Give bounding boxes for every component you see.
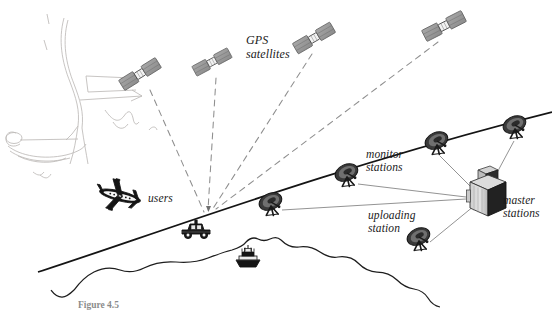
signal-ray-sat3 bbox=[212, 54, 312, 210]
link-monitor-upper-to-master bbox=[440, 156, 470, 186]
satellite-3 bbox=[292, 22, 335, 54]
airplane-icon bbox=[92, 174, 144, 216]
signal-convergence-arrow bbox=[206, 206, 211, 212]
master-station-building-icon bbox=[467, 166, 507, 216]
satellite-1 bbox=[119, 57, 162, 90]
figure-caption: Figure 4.5 bbox=[78, 300, 119, 310]
monitor-station-left bbox=[332, 160, 360, 186]
label-gps-satellites: GPS satellites bbox=[246, 34, 290, 61]
gps-architecture-figure: GPS satellites users monitor stations ma… bbox=[0, 0, 552, 312]
signal-ray-sat4 bbox=[216, 42, 438, 209]
label-monitor-stations: monitor stations bbox=[366, 148, 403, 173]
link-upload-to-master bbox=[430, 206, 474, 242]
monitor-station-upper bbox=[422, 128, 450, 154]
ship-icon bbox=[236, 245, 260, 267]
satellite-4 bbox=[421, 10, 466, 41]
label-master-stations: master stations bbox=[503, 194, 540, 219]
monitor-station-right bbox=[500, 112, 528, 138]
satellite-2 bbox=[192, 48, 232, 77]
label-users: users bbox=[148, 192, 173, 205]
link-monitor-left-to-master bbox=[358, 184, 466, 197]
pencil-sketch-artifact bbox=[6, 14, 157, 178]
label-uploading-station: uploading station bbox=[368, 209, 416, 234]
monitor-station-mid bbox=[256, 189, 284, 215]
signal-ray-sat2 bbox=[208, 78, 216, 210]
